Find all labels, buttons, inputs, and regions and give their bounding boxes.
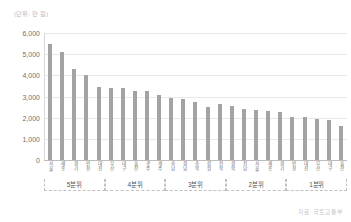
bar-slot [92, 33, 104, 160]
x-tick-label: 제주 [153, 161, 165, 170]
bar-slot [165, 33, 177, 160]
bar-slot [202, 33, 214, 160]
bar-slot [323, 33, 335, 160]
group-bracket: 1분위 [286, 179, 347, 191]
x-tick-label: 광주 [141, 161, 153, 170]
bar-slot [177, 33, 189, 160]
bar [327, 120, 331, 160]
x-tick-label: 전북 [214, 161, 226, 170]
bar [109, 88, 113, 160]
group-bracket-label: 5분위 [67, 180, 82, 189]
y-tick-label: 6,000 [0, 30, 40, 37]
x-tick-label: 대전 [92, 161, 104, 170]
y-tick-label: 4,000 [0, 72, 40, 79]
bar [242, 109, 246, 160]
x-tick-label: 세종 [262, 161, 274, 170]
bar-slot [68, 33, 80, 160]
y-tick-label: 0 [0, 157, 40, 164]
group-bracket: 3분위 [165, 179, 226, 191]
x-tick-label: 부산 [105, 161, 117, 170]
bar [266, 111, 270, 160]
bar [290, 117, 294, 160]
bar-slot [335, 33, 347, 160]
x-tick-label: 부산 [311, 161, 323, 170]
x-tick-label: 서울 [44, 161, 56, 170]
bar [339, 126, 343, 160]
bar [48, 44, 52, 160]
x-tick-label: 경기 [274, 161, 286, 170]
x-tick-label: 경남 [177, 161, 189, 170]
bar [133, 91, 137, 160]
x-tick-label: 세종 [56, 161, 68, 170]
y-tick-label: 1,000 [0, 135, 40, 142]
bar-slot [105, 33, 117, 160]
bar [145, 91, 149, 160]
x-tick-label: 인천 [80, 161, 92, 170]
bar-slot [226, 33, 238, 160]
bar [84, 75, 88, 160]
bar-slot [262, 33, 274, 160]
y-tick-label: 2,000 [0, 114, 40, 121]
bar [218, 104, 222, 160]
source-note: 자료: 국토교통부 [298, 207, 343, 216]
x-tick-label: 대구 [117, 161, 129, 170]
bar-slot [80, 33, 92, 160]
x-tick-label: 울산 [335, 161, 347, 170]
bar-slot [117, 33, 129, 160]
bar-slot [44, 33, 56, 160]
bar [206, 107, 210, 160]
bar-slot [299, 33, 311, 160]
bar-slot [189, 33, 201, 160]
bar [72, 69, 76, 160]
x-tick-label: 대전 [299, 161, 311, 170]
y-axis-tick-labels: 01,0002,0003,0004,0005,0006,000 [0, 0, 40, 222]
x-tick-label: 충남 [165, 161, 177, 170]
group-bracket-label: 2분위 [249, 180, 264, 189]
x-tick-label: 인천 [286, 161, 298, 170]
y-tick-label: 5,000 [0, 51, 40, 58]
group-bracket-label: 3분위 [188, 180, 203, 189]
x-tick-label: 서울 [250, 161, 262, 170]
bar-slot [238, 33, 250, 160]
bar-slot [56, 33, 68, 160]
bar-slot [286, 33, 298, 160]
group-bracket-label: 1분위 [309, 180, 324, 189]
group-bracket: 2분위 [226, 179, 287, 191]
x-tick-label: 경기 [68, 161, 80, 170]
bar [254, 110, 258, 160]
x-tick-label: 경북 [226, 161, 238, 170]
bar [157, 95, 161, 160]
x-tick-label: 강원 [202, 161, 214, 170]
x-tick-label: 전남 [238, 161, 250, 170]
x-tick-label: 충북 [189, 161, 201, 170]
bar-slot [141, 33, 153, 160]
x-axis-category-labels: 서울세종경기인천대전부산대구울산광주제주충남경남충북강원전북경북전남서울세종경기… [44, 161, 347, 179]
bar-series [44, 33, 347, 160]
bar [315, 119, 319, 160]
bar-slot [214, 33, 226, 160]
bar-slot [153, 33, 165, 160]
bar [60, 52, 64, 160]
y-tick-label: 3,000 [0, 93, 40, 100]
bar [97, 87, 101, 160]
x-tick-label: 울산 [129, 161, 141, 170]
x-axis-group-brackets: 5분위4분위3분위2분위1분위 [44, 179, 347, 192]
bar-slot [274, 33, 286, 160]
group-bracket: 4분위 [105, 179, 166, 191]
bar [193, 102, 197, 160]
group-bracket-label: 4분위 [127, 180, 142, 189]
bar [230, 106, 234, 160]
bar-slot [311, 33, 323, 160]
bar-slot [129, 33, 141, 160]
bar [169, 98, 173, 160]
bar-slot [250, 33, 262, 160]
bar [181, 99, 185, 160]
bar [121, 88, 125, 160]
bar [278, 112, 282, 160]
bar-chart-figure: (단위: 만 원) 01,0002,0003,0004,0005,0006,00… [0, 0, 351, 222]
x-tick-label: 대구 [323, 161, 335, 170]
group-bracket: 5분위 [44, 179, 105, 191]
bar [303, 117, 307, 160]
